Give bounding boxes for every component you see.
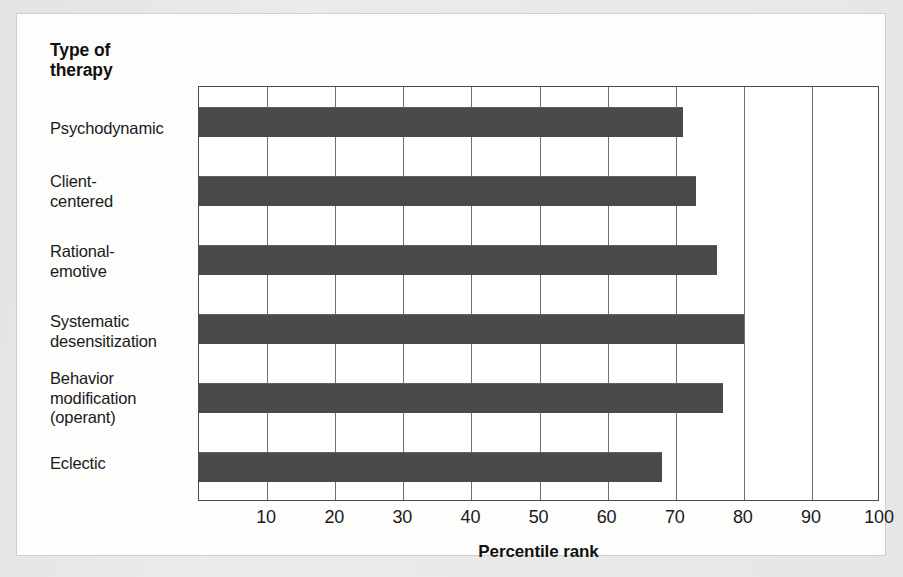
gridline-90 [812, 87, 813, 500]
x-tick-label-100: 100 [849, 507, 903, 528]
bar-2 [199, 245, 717, 275]
category-label-4-line-1: modification [50, 389, 196, 409]
figure-canvas: Type of therapy PsychodynamicClient-cent… [17, 14, 885, 555]
category-label-4: Behaviormodification(operant) [50, 369, 196, 428]
figure-frame: Type of therapy PsychodynamicClient-cent… [0, 0, 903, 577]
x-tick-label-30: 30 [372, 507, 432, 528]
y-axis-title: Type of therapy [50, 40, 190, 81]
bar-4 [199, 383, 723, 413]
x-tick-label-20: 20 [304, 507, 364, 528]
category-label-2-line-1: emotive [50, 262, 196, 282]
x-tick-label-90: 90 [781, 507, 841, 528]
category-label-5: Eclectic [50, 454, 196, 474]
bar-0 [199, 107, 683, 137]
category-label-0: Psychodynamic [50, 119, 196, 139]
gridline-60 [608, 87, 609, 500]
category-label-1: Client-centered [50, 172, 196, 211]
gridline-20 [335, 87, 336, 500]
gridline-30 [403, 87, 404, 500]
category-label-3-line-1: desensitization [50, 332, 196, 352]
x-tick-label-60: 60 [577, 507, 637, 528]
x-tick-label-80: 80 [713, 507, 773, 528]
gridline-50 [540, 87, 541, 500]
y-axis-title-line-2: therapy [50, 60, 190, 80]
category-label-1-line-0: Client- [50, 172, 196, 192]
x-tick-label-70: 70 [645, 507, 705, 528]
x-axis-title: Percentile rank [198, 542, 879, 562]
x-tick-label-10: 10 [236, 507, 296, 528]
category-label-3-line-0: Systematic [50, 312, 196, 332]
category-label-4-line-0: Behavior [50, 369, 196, 389]
x-tick-label-40: 40 [440, 507, 500, 528]
category-label-3: Systematicdesensitization [50, 312, 196, 351]
gridline-40 [471, 87, 472, 500]
gridline-10 [267, 87, 268, 500]
category-label-0-line-0: Psychodynamic [50, 119, 196, 139]
category-label-2-line-0: Rational- [50, 242, 196, 262]
bar-3 [199, 314, 744, 344]
x-tick-label-50: 50 [509, 507, 569, 528]
gridline-70 [676, 87, 677, 500]
y-axis-title-line-1: Type of [50, 40, 190, 60]
category-label-2: Rational-emotive [50, 242, 196, 281]
gridline-80 [744, 87, 745, 500]
bar-5 [199, 452, 662, 482]
category-label-4-line-2: (operant) [50, 408, 196, 428]
bar-1 [199, 176, 696, 206]
plot-area [198, 86, 879, 501]
category-label-5-line-0: Eclectic [50, 454, 196, 474]
category-label-1-line-1: centered [50, 192, 196, 212]
